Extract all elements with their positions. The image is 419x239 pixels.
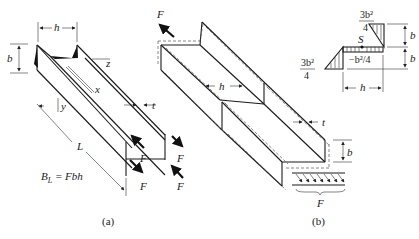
- label-b-b: b: [347, 146, 353, 158]
- label-t-b: t: [322, 116, 326, 128]
- caption-b: (b): [312, 215, 325, 228]
- left-frac-num: 3b²: [301, 57, 314, 68]
- label-L: L: [76, 140, 83, 152]
- label-F2: F: [176, 152, 184, 164]
- force-arrows-a: [130, 136, 183, 178]
- panel-b: F: [156, 8, 353, 228]
- top-frac-den: 4: [363, 22, 368, 33]
- b-dimension-a: b: [7, 44, 28, 73]
- label-F1: F: [139, 152, 147, 164]
- label-F4: F: [176, 180, 184, 192]
- label-mid: −b²/4: [349, 54, 370, 65]
- h-dimension-a: h: [38, 21, 77, 42]
- label-b-lower: b: [410, 52, 416, 64]
- panel-a: h b z x: [7, 21, 184, 228]
- label-F-bottom: F: [316, 197, 324, 209]
- equation-BL: BL = Fbh: [41, 170, 83, 185]
- label-F3: F: [139, 180, 147, 192]
- caption-a: (a): [102, 215, 115, 228]
- label-b-upper: b: [410, 29, 416, 41]
- label-x: x: [94, 83, 100, 95]
- label-z: z: [105, 57, 111, 69]
- label-y: y: [60, 100, 66, 112]
- channel-beam-bimoment-figure: h b z x: [0, 0, 419, 239]
- deformed-channel-b: [158, 22, 330, 190]
- left-frac-den: 4: [304, 70, 309, 81]
- label-h-inset: h: [360, 81, 366, 93]
- label-h-b: h: [219, 80, 225, 92]
- label-h: h: [54, 21, 60, 33]
- sectorial-diagram-inset: 3b² 4 S −b²/4 3b² 4 b b: [300, 9, 416, 93]
- label-b: b: [7, 52, 13, 64]
- label-S: S: [358, 33, 364, 45]
- shear-center-dot: [360, 45, 363, 48]
- distributed-load: [292, 173, 345, 195]
- label-F-top: F: [156, 8, 164, 20]
- top-frac-num: 3b²: [360, 9, 373, 20]
